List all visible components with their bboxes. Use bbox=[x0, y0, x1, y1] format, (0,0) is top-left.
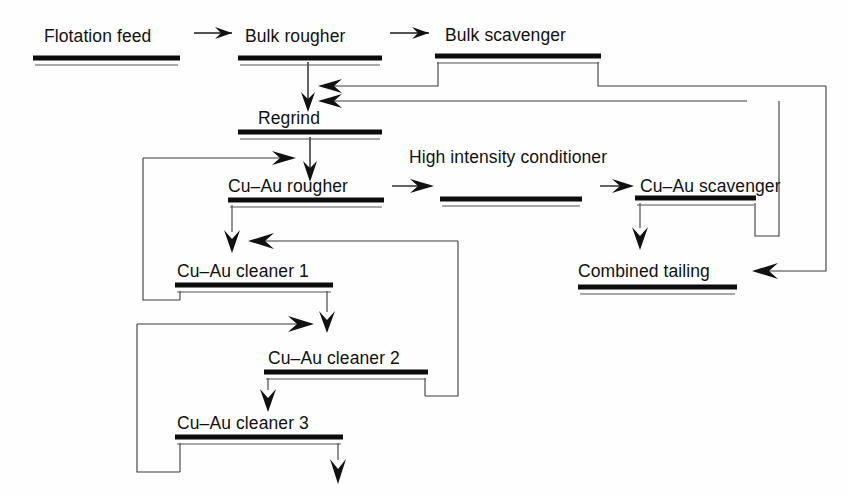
connector-scavenger-conc-recycle-to-regrind bbox=[318, 94, 747, 108]
flowsheet-svg: Flotation feedBulk rougherBulk scavenger… bbox=[0, 0, 849, 497]
connector-rougher-tail-to-conditioner bbox=[392, 179, 434, 193]
unit-label-flotation-feed: Flotation feed bbox=[44, 26, 151, 46]
unit-label-bulk-rougher: Bulk rougher bbox=[245, 26, 345, 46]
connector-cleaner1-legs bbox=[180, 291, 335, 333]
connector-conditioner-to-cu-au-scavenger bbox=[600, 179, 634, 193]
unit-label-cu-au-cleaner-2: Cu–Au cleaner 2 bbox=[268, 348, 400, 368]
unit-cell-bars bbox=[33, 56, 756, 444]
unit-label-high-intensity-conditioner: High intensity conditioner bbox=[409, 147, 607, 167]
unit-label-cu-au-cleaner-1: Cu–Au cleaner 1 bbox=[177, 261, 309, 281]
unit-label-cu-au-cleaner-3: Cu–Au cleaner 3 bbox=[177, 413, 309, 433]
unit-label-combined-tailing: Combined tailing bbox=[578, 261, 710, 281]
flowsheet-canvas: Flotation feedBulk rougherBulk scavenger… bbox=[0, 0, 849, 497]
connector-cleaner2-legs bbox=[260, 378, 425, 412]
connector-cleaner3-final-product bbox=[180, 443, 346, 484]
connector-bulk-scavenger-legs bbox=[330, 62, 826, 86]
unit-label-cu-au-rougher: Cu–Au rougher bbox=[228, 176, 348, 196]
unit-label-bulk-scavenger: Bulk scavenger bbox=[445, 25, 566, 45]
connector-rougher-conc-to-cleaner-1 bbox=[224, 205, 240, 253]
connector-feed-to-bulk-rougher bbox=[194, 27, 232, 39]
unit-label-cu-au-scavenger: Cu–Au scavenger bbox=[640, 176, 781, 196]
connector-cleaner3-tail-to-cleaner-2 bbox=[137, 316, 314, 472]
unit-label-regrind: Regrind bbox=[258, 108, 320, 128]
connector-bulk-rougher-to-bulk-scavenger bbox=[390, 27, 429, 39]
connector-bulk-rougher-conc-to-regrind bbox=[301, 62, 315, 112]
